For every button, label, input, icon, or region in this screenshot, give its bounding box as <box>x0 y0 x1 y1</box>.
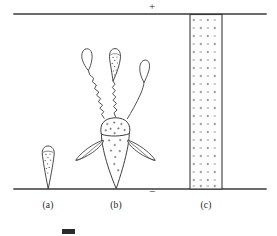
avalanche-body-a <box>42 146 54 189</box>
panel-label-b: (b) <box>104 200 128 210</box>
anode-polarity-symbol: + <box>145 0 159 12</box>
caption-strip <box>0 226 277 236</box>
panel-b-streamer <box>76 49 155 189</box>
caption-swatch <box>62 229 75 234</box>
streamer-filament-left-b <box>88 70 104 118</box>
panel-a-avalanche <box>42 146 54 189</box>
caption-text <box>92 226 242 234</box>
streamer-filament-center-b <box>112 81 117 117</box>
panel-label-c: (c) <box>194 200 218 210</box>
figure-root: + − (a) (b) (c) <box>0 0 277 236</box>
streamer-loop-right-b <box>140 60 150 82</box>
streamer-filament-right-b <box>127 82 144 119</box>
streamer-loop-left-b <box>82 49 92 71</box>
panel-c-charge-column <box>190 15 222 190</box>
cathode-polarity-symbol: − <box>145 185 159 197</box>
charge-column-body <box>190 15 222 190</box>
panel-label-a: (a) <box>36 200 60 210</box>
streamer-main-cone-b <box>101 130 129 189</box>
